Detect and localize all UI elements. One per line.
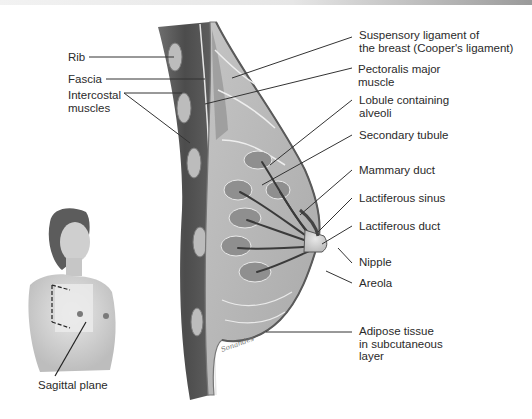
label-sagittal-plane: Sagittal plane	[38, 379, 108, 392]
label-nipple: Nipple	[359, 256, 392, 269]
label-intercostal-muscles: Intercostal muscles	[68, 89, 121, 114]
rib-shape	[177, 93, 191, 123]
label-adipose-tissue: Adipose tissue in subcutaneous layer	[359, 325, 443, 363]
lobule-shape	[221, 236, 251, 256]
nipple-shape	[304, 230, 327, 252]
label-line: the breast (Cooper's ligament)	[359, 42, 513, 55]
lobule-shape	[229, 208, 261, 228]
leader-areola	[326, 271, 352, 283]
rib-shape	[187, 148, 201, 178]
label-line: Areola	[359, 277, 392, 290]
label-line: Fascia	[68, 73, 102, 86]
label-suspensory-ligament: Suspensory ligament of the breast (Coope…	[359, 29, 513, 54]
label-line: Adipose tissue	[359, 325, 443, 338]
label-mammary-duct: Mammary duct	[359, 164, 435, 177]
label-lobule: Lobule containing alveoli	[359, 94, 449, 119]
lobule-shape	[239, 262, 271, 282]
label-line: muscle	[358, 76, 440, 89]
inset-torso-figure	[28, 208, 115, 376]
label-lactiferous-duct: Lactiferous duct	[359, 220, 440, 233]
label-line: in subcutaneous	[359, 338, 443, 351]
label-line: muscles	[68, 102, 121, 115]
label-areola: Areola	[359, 277, 392, 290]
label-line: Intercostal	[68, 89, 121, 102]
label-line: Lobule containing	[359, 94, 449, 107]
label-line: Lactiferous sinus	[359, 192, 445, 205]
label-pectoralis-major: Pectoralis major muscle	[358, 63, 440, 88]
label-line: Lactiferous duct	[359, 220, 440, 233]
label-rib: Rib	[68, 51, 85, 64]
label-line: Rib	[68, 51, 85, 64]
label-line: Mammary duct	[359, 164, 435, 177]
label-line: Sagittal plane	[38, 379, 108, 392]
leader-nipple	[338, 248, 352, 263]
label-line: Suspensory ligament of	[359, 29, 513, 42]
label-line: Secondary tubule	[359, 129, 449, 142]
label-secondary-tubule: Secondary tubule	[359, 129, 449, 142]
label-line: Nipple	[359, 256, 392, 269]
label-fascia: Fascia	[68, 73, 102, 86]
leader-suspensory	[232, 37, 352, 78]
lobule-shape	[244, 151, 272, 169]
label-lactiferous-sinus: Lactiferous sinus	[359, 192, 445, 205]
breast-tissue: Sonandes	[205, 22, 327, 395]
label-line: layer	[359, 350, 443, 363]
lobule-shape	[266, 181, 290, 199]
leader-lactiferous-sinus	[318, 198, 352, 232]
label-line: alveoli	[359, 107, 449, 120]
label-line: Pectoralis major	[358, 63, 440, 76]
leader-lactiferous-duct	[322, 226, 352, 244]
rib-shape	[191, 308, 203, 336]
